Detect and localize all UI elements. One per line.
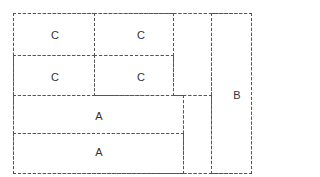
vertical-strip-upper [173,13,212,96]
label-b: B [233,89,240,101]
label-c4: C [137,71,145,83]
vertical-strip-lower [183,95,212,174]
label-a2: A [95,146,102,158]
label-a1: A [95,110,102,122]
label-c3: C [51,71,59,83]
region-c-top-right [94,13,174,56]
region-c-bottom-right [94,55,174,96]
label-c1: C [51,29,59,41]
label-c2: C [137,29,145,41]
region-b [211,13,252,174]
